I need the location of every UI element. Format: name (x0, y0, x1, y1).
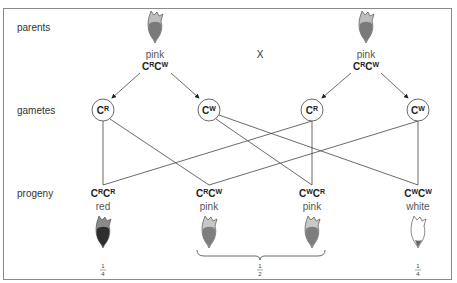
arrow-left-to-gamete-2 (171, 73, 199, 98)
progeny-2-phenotype: pink (200, 201, 219, 212)
svg-text:1: 1 (258, 263, 262, 269)
arrow-left-to-gamete-1 (112, 73, 140, 98)
progeny-1-genotype: CRCR (91, 188, 116, 199)
fraction-pink: 1 2 (257, 263, 263, 277)
gamete-3: CR (301, 99, 323, 121)
svg-text:4: 4 (416, 271, 420, 277)
gamete-2: CW (198, 99, 220, 121)
progeny-3-genotype: CWCR (299, 188, 325, 199)
parent-right-phenotype: pink (357, 49, 376, 60)
svg-text:4: 4 (101, 271, 105, 277)
svg-text:2: 2 (258, 271, 262, 277)
parent-left-genotype: CRCW (142, 61, 169, 72)
parent-left-phenotype: pink (146, 49, 165, 60)
parent-flower-left-icon (148, 11, 163, 43)
gamete-progeny-lines (103, 114, 418, 185)
row-label-gametes: gametes (17, 105, 55, 116)
svg-text:1: 1 (416, 263, 420, 269)
progeny-1-phenotype: red (96, 201, 110, 212)
svg-text:1: 1 (101, 263, 105, 269)
progeny-3-phenotype: pink (303, 201, 322, 212)
progeny-pink-flower-1-icon (202, 216, 217, 248)
gamete-4: CW (407, 99, 429, 121)
row-label-progeny: progeny (17, 188, 53, 199)
pink-brace (197, 250, 325, 260)
progeny-white-flower-icon (411, 216, 426, 248)
row-label-parents: parents (17, 22, 50, 33)
punnett-cross-diagram: parents gametes progeny pink CRCW X pink… (0, 0, 457, 283)
arrow-right-to-gamete-4 (381, 73, 408, 98)
parent-flower-right-icon (359, 11, 374, 43)
fraction-red: 1 4 (100, 263, 106, 277)
progeny-red-flower-icon (96, 216, 111, 248)
progeny-4-genotype: CWCW (404, 188, 432, 199)
progeny-pink-flower-2-icon (305, 216, 320, 248)
cross-symbol: X (257, 49, 264, 60)
arrow-right-to-gamete-3 (322, 73, 351, 98)
progeny-4-phenotype: white (405, 201, 430, 212)
gamete-1: CR (92, 99, 114, 121)
fraction-white: 1 4 (415, 263, 421, 277)
progeny-2-genotype: CRCW (196, 188, 223, 199)
parent-right-genotype: CRCW (353, 61, 380, 72)
